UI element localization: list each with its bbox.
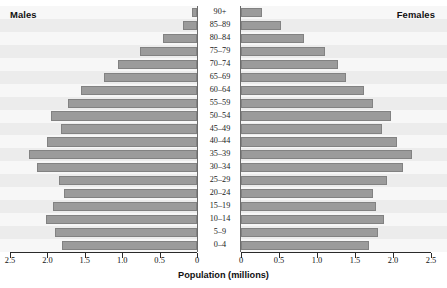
bar-male-60-64 — [81, 86, 197, 95]
age-group-label: 10–14 — [198, 213, 242, 226]
age-group-label: 40–44 — [198, 135, 242, 148]
bar-male-15-19 — [53, 202, 197, 211]
axis-tick-label: 0 — [239, 256, 243, 265]
bar-female-85-89 — [241, 21, 281, 30]
axis-tick-label: 1.5 — [350, 256, 360, 265]
age-group-label: 70–74 — [198, 58, 242, 71]
bar-female-75-79 — [241, 47, 325, 56]
x-axis-title: Population (millions) — [0, 270, 447, 280]
age-group-label: 90+ — [198, 6, 242, 19]
axis-tick-label: 1.0 — [312, 256, 322, 265]
bar-male-45-49 — [61, 124, 197, 133]
age-group-label-column: 90+85–8980–8475–7970–7465–6960–6455–5950… — [197, 6, 241, 252]
axis-tick-label: 1.0 — [117, 256, 127, 265]
bar-female-10-14 — [241, 215, 384, 224]
bar-female-40-44 — [241, 137, 397, 146]
bar-male-40-44 — [47, 137, 197, 146]
females-legend-label: Females — [397, 9, 435, 20]
bar-male-35-39 — [29, 150, 197, 159]
bar-female-30-34 — [241, 163, 403, 172]
bar-male-70-74 — [118, 60, 197, 69]
bar-female-65-69 — [241, 73, 346, 82]
bar-male-25-29 — [59, 176, 197, 185]
plot-area: 90+85–8980–8475–7970–7465–6960–6455–5950… — [0, 6, 447, 252]
males-legend-label: Males — [10, 9, 37, 20]
bar-male-55-59 — [68, 99, 197, 108]
male-x-axis — [10, 252, 197, 258]
age-group-label: 20–24 — [198, 187, 242, 200]
bar-female-45-49 — [241, 124, 382, 133]
axis-tick-label: 0 — [195, 256, 199, 265]
age-group-label: 55–59 — [198, 97, 242, 110]
age-group-label: 0–4 — [198, 239, 242, 252]
age-group-label: 75–79 — [198, 45, 242, 58]
bar-female-55-59 — [241, 99, 373, 108]
age-group-label: 85–89 — [198, 19, 242, 32]
age-group-label: 45–49 — [198, 123, 242, 136]
axis-tick-label: 2.0 — [42, 256, 52, 265]
bar-male-75-79 — [140, 47, 197, 56]
bar-female-70-74 — [241, 60, 338, 69]
bar-female-20-24 — [241, 189, 373, 198]
bar-male-30-34 — [37, 163, 197, 172]
female-x-axis — [241, 252, 431, 258]
population-pyramid-chart: Males Females 90+85–8980–8475–7970–7465–… — [0, 0, 447, 288]
axis-tick-label: 2.5 — [426, 256, 436, 265]
age-group-label: 50–54 — [198, 110, 242, 123]
axis-tick-label: 2.0 — [388, 256, 398, 265]
age-group-label: 15–19 — [198, 200, 242, 213]
bar-male-80-84 — [163, 34, 197, 43]
bar-male-10-14 — [46, 215, 197, 224]
axis-tick-label: 0.5 — [274, 256, 284, 265]
bar-female-15-19 — [241, 202, 376, 211]
age-group-label: 35–39 — [198, 148, 242, 161]
age-group-label: 5–9 — [198, 226, 242, 239]
age-group-label: 80–84 — [198, 32, 242, 45]
bar-male-0-4 — [62, 241, 197, 250]
bar-male-50-54 — [51, 111, 197, 120]
age-group-label: 65–69 — [198, 71, 242, 84]
axis-tick-label: 0.5 — [154, 256, 164, 265]
age-group-label: 30–34 — [198, 161, 242, 174]
bar-female-50-54 — [241, 111, 391, 120]
bar-male-65-69 — [104, 73, 198, 82]
age-group-label: 60–64 — [198, 84, 242, 97]
bar-female-0-4 — [241, 241, 369, 250]
bar-female-90+ — [241, 8, 262, 17]
axis-tick-label: 2.5 — [5, 256, 15, 265]
bar-male-85-89 — [183, 21, 197, 30]
axis-tick-label: 1.5 — [80, 256, 90, 265]
bar-female-80-84 — [241, 34, 304, 43]
bar-female-60-64 — [241, 86, 364, 95]
bar-male-20-24 — [64, 189, 197, 198]
bar-female-5-9 — [241, 228, 378, 237]
bar-female-35-39 — [241, 150, 412, 159]
bar-male-5-9 — [55, 228, 197, 237]
bar-female-25-29 — [241, 176, 387, 185]
age-group-label: 25–29 — [198, 174, 242, 187]
